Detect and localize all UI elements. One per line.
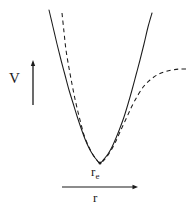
harmonic-parabola-curve [49, 10, 152, 163]
re-subscript: e [96, 171, 100, 181]
morse-potential-curve [62, 13, 187, 163]
vertical-axis-arrowhead-icon [31, 60, 35, 66]
axes-group [31, 60, 138, 189]
re-base-symbol: r [91, 164, 95, 179]
horizontal-axis-label: r [93, 191, 97, 204]
potential-energy-figure: V re r [0, 0, 190, 210]
horizontal-axis-arrowhead-icon [133, 185, 139, 189]
curves-group [49, 10, 187, 165]
equilibrium-distance-label: re [91, 165, 100, 181]
vertical-axis-label: V [9, 71, 20, 86]
